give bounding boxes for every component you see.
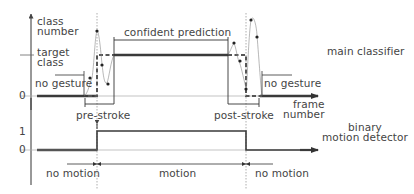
lower-zero-tick: 0 <box>19 144 26 155</box>
gesture-timing-diagram: class number target class 0 no gesture c… <box>0 0 414 194</box>
target-class-label-line2: class <box>37 57 64 68</box>
motion-detector-title-line2: motion detector <box>320 132 410 143</box>
main-classifier-title: main classifier <box>327 46 404 57</box>
pre-stroke-bracket <box>85 98 114 107</box>
no-gesture-right-label: no gesture <box>264 78 321 89</box>
motion-label: motion <box>159 168 196 179</box>
post-stroke-bracket <box>228 98 259 107</box>
lower-one-tick: 1 <box>19 126 26 137</box>
x-axis-label-number: number <box>283 109 325 120</box>
y-axis-label-number: number <box>37 26 79 37</box>
no-gesture-left-label: no gesture <box>35 78 92 89</box>
no-motion-right-label: no motion <box>255 168 309 179</box>
confident-prediction-bracket <box>114 37 228 104</box>
motion-detector-output <box>37 131 318 150</box>
classifier-output <box>37 55 318 96</box>
pre-stroke-label: pre-stroke <box>76 110 130 121</box>
no-motion-left-label: no motion <box>46 168 100 179</box>
upper-zero-tick: 0 <box>19 90 26 101</box>
post-stroke-label: post-stroke <box>214 110 274 121</box>
confident-prediction-label: confident prediction <box>124 27 231 38</box>
